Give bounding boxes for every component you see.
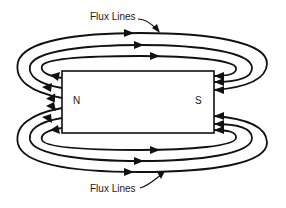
bottom-pointer-head bbox=[157, 171, 165, 179]
flux-lines-label-top: Flux Lines bbox=[90, 12, 136, 22]
arrow-top-inner bbox=[150, 52, 160, 60]
arrow-s-in-4 bbox=[214, 112, 224, 120]
arrow-n-out-6 bbox=[50, 125, 60, 134]
flux-lines-svg bbox=[0, 0, 286, 208]
bar-magnet bbox=[62, 71, 214, 133]
arrow-top-middle bbox=[134, 41, 144, 49]
magnet-flux-diagram: Flux Lines Flux Lines N S bbox=[0, 0, 286, 208]
bottom-label-pointer bbox=[140, 174, 162, 188]
flux-lines-label-bottom: Flux Lines bbox=[90, 184, 136, 194]
arrow-bottom-outer bbox=[124, 168, 134, 176]
arrow-s-in-6 bbox=[214, 126, 224, 134]
arrow-bottom-middle bbox=[134, 157, 144, 165]
north-pole-label: N bbox=[73, 96, 80, 106]
arrow-s-in-3 bbox=[214, 86, 224, 94]
arrow-bottom-inner bbox=[150, 146, 160, 154]
south-pole-label: S bbox=[195, 96, 202, 106]
arrow-top-outer bbox=[124, 29, 134, 37]
arrow-s-in-2 bbox=[214, 78, 224, 86]
